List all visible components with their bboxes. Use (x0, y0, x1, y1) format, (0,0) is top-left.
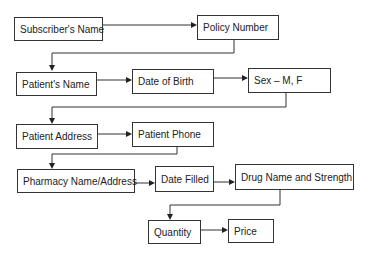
node-patient-address: Patient Address (16, 124, 98, 149)
node-price: Price (228, 219, 274, 243)
arrowhead-icon (49, 65, 55, 71)
node-quantity: Quantity (148, 220, 201, 244)
edge-sex-to-address (52, 92, 286, 119)
node-policy-number: Policy Number (197, 15, 279, 40)
edge-policy-to-patient-name (52, 39, 234, 66)
node-drug-name-strength: Drug Name and Strength (235, 164, 354, 190)
node-patient-name: Patient's Name (16, 72, 97, 96)
node-date-of-birth: Date of Birth (132, 69, 214, 94)
edge-drug-to-quantity (170, 189, 280, 215)
node-pharmacy-name-address: Pharmacy Name/Address (17, 169, 135, 193)
node-patient-phone: Patient Phone (132, 122, 214, 147)
node-date-filled: Date Filled (155, 166, 214, 192)
flowchart-canvas: Subscriber's Name Policy Number Patient'… (0, 0, 368, 259)
node-subscriber-name: Subscriber's Name (14, 17, 103, 41)
node-sex: Sex – M, F (248, 68, 331, 93)
